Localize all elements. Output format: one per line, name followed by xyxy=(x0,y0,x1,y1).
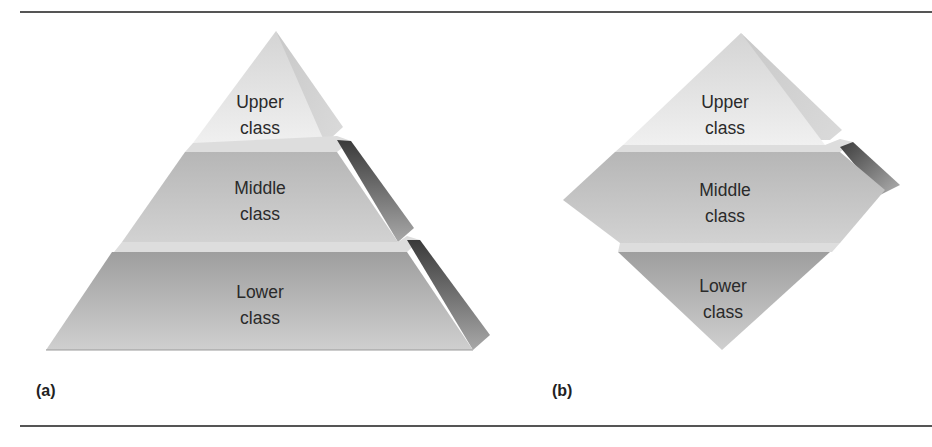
diamond-band-2 xyxy=(618,243,840,252)
tier-label-line: class xyxy=(665,115,785,141)
panel-label-a: (a) xyxy=(36,382,56,400)
diamond-upper-label: Upper class xyxy=(665,89,785,141)
tier-label-line: class xyxy=(200,305,320,331)
class-structure-diagram xyxy=(0,0,932,447)
tier-label-line: Upper xyxy=(665,89,785,115)
panel-label-b: (b) xyxy=(552,382,572,400)
tier-label-line: Middle xyxy=(200,175,320,201)
diamond-middle-label: Middle class xyxy=(665,177,785,229)
diamond-lower-label: Lower class xyxy=(663,273,783,325)
bottom-rule xyxy=(20,425,932,427)
tier-label-line: Lower xyxy=(663,273,783,299)
tier-label-line: Middle xyxy=(665,177,785,203)
tier-label-line: Lower xyxy=(200,279,320,305)
pyramid-middle-label: Middle class xyxy=(200,175,320,227)
tier-label-line: Upper xyxy=(200,89,320,115)
pyramid-upper-label: Upper class xyxy=(200,89,320,141)
tier-label-line: class xyxy=(663,299,783,325)
tier-label-line: class xyxy=(200,115,320,141)
tier-label-line: class xyxy=(200,201,320,227)
tier-label-line: class xyxy=(665,203,785,229)
pyramid-lower-label: Lower class xyxy=(200,279,320,331)
